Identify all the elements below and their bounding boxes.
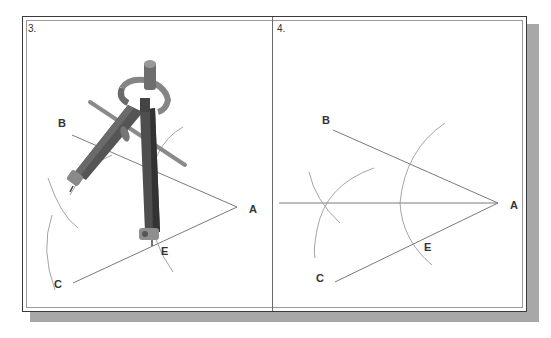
label-c-panel-3: C xyxy=(54,278,62,290)
panel-4-geometry: B A C E xyxy=(279,114,518,284)
label-a-panel-3: A xyxy=(249,203,257,215)
panel-3-geometry: B A C E xyxy=(47,60,257,290)
ray-ab xyxy=(333,130,498,203)
label-b-panel-3: B xyxy=(58,117,66,129)
label-a-panel-4: A xyxy=(510,199,518,211)
ray-ac xyxy=(335,203,498,282)
label-e-panel-4: E xyxy=(424,241,431,253)
label-c-panel-4: C xyxy=(316,272,324,284)
construction-drawing: B A C E B A C E xyxy=(0,0,551,338)
arc-from-b xyxy=(314,168,374,258)
compass-icon xyxy=(66,60,185,246)
label-b-panel-4: B xyxy=(322,114,330,126)
arc-from-b xyxy=(48,178,78,228)
arc-from-c xyxy=(309,172,340,223)
label-e-panel-3: E xyxy=(161,245,168,257)
arc-main xyxy=(400,123,445,265)
